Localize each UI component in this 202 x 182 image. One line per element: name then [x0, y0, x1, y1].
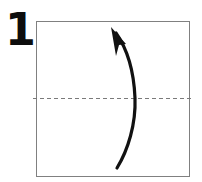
origami-step-diagram: 1 [0, 0, 202, 182]
paper-illustration [0, 0, 202, 182]
